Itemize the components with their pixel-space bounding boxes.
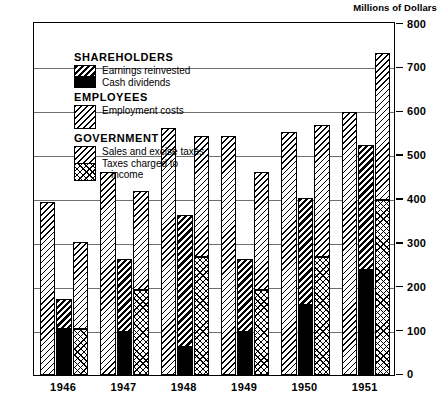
y-axis-tick	[396, 154, 403, 156]
bar-taxes-charged-to-income	[133, 290, 149, 376]
bar-sales-and-excise-taxes	[254, 172, 270, 290]
x-axis-label: 1950	[291, 381, 317, 393]
y-axis-label: 0	[407, 368, 413, 380]
bar-employment-costs	[40, 202, 56, 375]
legend-labels: Earnings reinvestedCash dividends	[102, 65, 190, 88]
bar-employment-costs	[281, 132, 297, 375]
legend-group: EMPLOYEESEmployment costs	[74, 90, 274, 129]
bar-taxes-charged-to-income	[194, 257, 210, 375]
bar-taxes-charged-to-income	[254, 290, 270, 376]
legend-item-label-cont: income	[102, 169, 204, 181]
legend-swatch-stack	[74, 65, 96, 88]
chart-legend: SHAREHOLDERSEarnings reinvestedCash divi…	[74, 50, 274, 183]
y-axis-label: 800	[407, 18, 426, 30]
bar-earnings-reinvested	[237, 259, 253, 331]
bar-cash-dividends	[237, 332, 253, 376]
legend-swatch	[75, 147, 95, 163]
legend-heading: GOVERNMENT	[74, 131, 274, 145]
legend-rows: Earnings reinvestedCash dividends	[74, 65, 274, 88]
bar-employment-costs	[342, 112, 358, 375]
y-axis-tick	[396, 67, 403, 69]
y-axis-label: 400	[407, 193, 426, 205]
bar-earnings-reinvested	[177, 215, 193, 347]
y-axis-label: 500	[407, 149, 426, 161]
legend-item-label: Cash dividends	[102, 77, 190, 89]
chart-unit-title: Millions of Dollars	[353, 2, 437, 13]
bar-cash-dividends	[177, 347, 193, 376]
chart-root: Millions of Dollars SHAREHOLDERSEarnings…	[0, 0, 443, 406]
bar-earnings-reinvested	[358, 145, 374, 270]
legend-group: SHAREHOLDERSEarnings reinvestedCash divi…	[74, 50, 274, 88]
legend-swatch	[75, 76, 95, 87]
y-axis-label: 100	[407, 325, 426, 337]
bar-sales-and-excise-taxes	[375, 53, 391, 200]
legend-heading: SHAREHOLDERS	[74, 50, 274, 64]
bar-taxes-charged-to-income	[314, 257, 330, 375]
legend-swatch-stack	[74, 146, 96, 181]
bar-earnings-reinvested	[56, 299, 72, 330]
x-axis-label: 1949	[231, 381, 257, 393]
y-axis-tick	[396, 198, 403, 200]
bar-taxes-charged-to-income	[73, 329, 89, 375]
legend-item-label: Taxes charged to	[102, 158, 204, 170]
y-axis-tick	[396, 23, 403, 25]
legend-rows: Employment costs	[74, 105, 274, 129]
bar-cash-dividends	[117, 332, 133, 376]
y-axis-tick	[396, 374, 403, 376]
bar-cash-dividends	[56, 329, 72, 375]
y-axis-tick	[396, 242, 403, 244]
y-axis-label: 200	[407, 281, 426, 293]
bar-sales-and-excise-taxes	[73, 242, 89, 330]
bar-earnings-reinvested	[117, 259, 133, 331]
plot-area: SHAREHOLDERSEarnings reinvestedCash divi…	[33, 22, 395, 376]
legend-heading: EMPLOYEES	[74, 90, 274, 104]
y-axis-tick	[396, 286, 403, 288]
legend-item-label: Employment costs	[102, 105, 184, 117]
y-axis-tick	[396, 111, 403, 113]
y-axis-tick	[396, 330, 403, 332]
legend-swatch	[75, 66, 95, 76]
bar-cash-dividends	[358, 270, 374, 375]
x-axis-label: 1947	[110, 381, 136, 393]
bar-sales-and-excise-taxes	[133, 191, 149, 290]
y-axis-label: 300	[407, 237, 426, 249]
y-axis-label: 700	[407, 61, 426, 73]
gridline	[34, 200, 394, 201]
bar-cash-dividends	[298, 305, 314, 375]
x-axis-label: 1951	[352, 381, 378, 393]
legend-group: GOVERNMENTSales and excise taxesTaxes ch…	[74, 131, 274, 181]
x-axis-label: 1946	[50, 381, 76, 393]
legend-labels: Employment costs	[102, 105, 184, 129]
bar-sales-and-excise-taxes	[314, 125, 330, 257]
bar-employment-costs	[100, 172, 116, 376]
legend-swatch	[74, 105, 96, 129]
y-axis-label: 600	[407, 105, 426, 117]
bar-earnings-reinvested	[298, 198, 314, 305]
legend-item-label: Earnings reinvested	[102, 65, 190, 77]
x-axis-label: 1948	[171, 381, 197, 393]
bar-taxes-charged-to-income	[375, 200, 391, 375]
legend-labels: Sales and excise taxesTaxes charged toin…	[102, 146, 204, 181]
legend-rows: Sales and excise taxesTaxes charged toin…	[74, 146, 274, 181]
legend-swatch	[75, 163, 95, 180]
legend-item-label: Sales and excise taxes	[102, 146, 204, 158]
